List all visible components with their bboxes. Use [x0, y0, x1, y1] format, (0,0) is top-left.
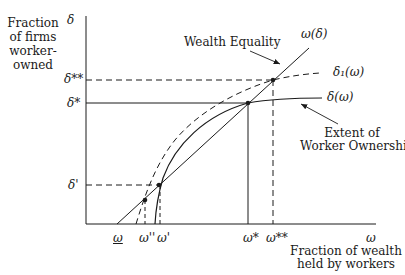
worker-ownership-line: Worker Ownership — [300, 140, 404, 153]
wealth-equality-annotation: Wealth Equality — [184, 36, 280, 49]
x-tick-omega-double-prime: ω'' — [139, 232, 155, 245]
y-axis-title-line: of firms — [6, 30, 60, 44]
y-axis-title-line: Fraction — [6, 16, 60, 30]
worker-ownership-arrow — [301, 104, 338, 124]
y-axis-title: Fraction of firms worker- owned — [6, 16, 60, 72]
delta-solid-curve — [155, 98, 322, 224]
delta1-dashed-curve — [136, 73, 320, 224]
x-tick-omega-double-star: ω** — [266, 232, 288, 245]
equilibrium-point-star — [246, 101, 251, 106]
wealth-equality-arrow — [250, 51, 280, 64]
equilibrium-point-double-star — [271, 78, 276, 83]
worker-ownership-annotation: Extent of Worker Ownership — [300, 127, 404, 153]
delta1-curve-label: δ₁(ω) — [333, 66, 364, 79]
delta-curve-label: δ(ω) — [327, 91, 353, 104]
point-double-prime — [143, 198, 148, 203]
x-tick-omega-underline: ω — [113, 232, 123, 245]
y-axis-title-line: worker- — [6, 44, 60, 58]
x-axis-title: Fraction of wealth held by workers — [288, 245, 404, 271]
y-tick-delta-prime: δ' — [68, 179, 79, 192]
equilibrium-point-prime — [157, 183, 162, 188]
diagram-canvas: Fraction of firms worker- owned δ δ** δ*… — [0, 0, 405, 275]
y-axis-symbol: δ — [67, 14, 74, 27]
x-axis-title-line: held by workers — [288, 258, 404, 271]
x-tick-omega-prime: ω' — [157, 232, 170, 245]
x-tick-omega-star: ω* — [243, 232, 259, 245]
y-tick-delta-double-star: δ** — [64, 73, 83, 86]
wealth-equality-line — [117, 48, 309, 224]
y-axis-title-line: owned — [6, 58, 60, 72]
wealth-line-label: ω(δ) — [301, 28, 327, 41]
y-tick-delta-star: δ* — [67, 97, 80, 110]
